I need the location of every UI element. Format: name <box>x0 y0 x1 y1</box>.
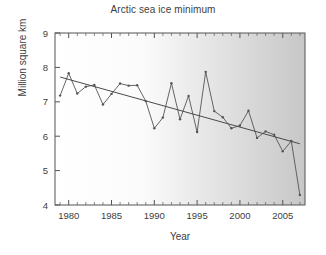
y-tick-label: 4 <box>43 200 48 211</box>
x-tick-label: 2000 <box>229 210 250 221</box>
data-point <box>213 110 215 112</box>
data-point <box>93 84 95 86</box>
chart-container: Arctic sea ice minimum Million square km… <box>0 0 326 255</box>
x-tick-label: 1980 <box>58 210 79 221</box>
x-tick-label: 1985 <box>101 210 122 221</box>
y-tick-label: 5 <box>43 165 48 176</box>
x-tick-label: 1995 <box>187 210 208 221</box>
data-point <box>162 116 164 118</box>
data-point <box>282 150 284 152</box>
x-tick-label: 1990 <box>144 210 165 221</box>
data-point <box>68 72 70 74</box>
data-point <box>273 134 275 136</box>
data-point <box>170 82 172 84</box>
data-point <box>102 103 104 105</box>
data-point <box>127 84 129 86</box>
data-point <box>230 127 232 129</box>
plot-area: 456789 198019851990199520002005 <box>0 0 326 255</box>
data-point <box>264 130 266 132</box>
data-point <box>136 84 138 86</box>
data-point <box>222 116 224 118</box>
data-point <box>76 92 78 94</box>
data-point <box>256 137 258 139</box>
data-point <box>299 194 301 196</box>
y-tick-label: 6 <box>43 131 48 142</box>
data-point <box>110 93 112 95</box>
data-point <box>187 95 189 97</box>
data-point <box>153 127 155 129</box>
data-point <box>59 94 61 96</box>
y-tick-label: 9 <box>43 28 48 39</box>
data-point <box>85 85 87 87</box>
y-tick-label: 7 <box>43 96 48 107</box>
data-point <box>179 118 181 120</box>
data-point <box>247 110 249 112</box>
x-tick-label: 2005 <box>272 210 293 221</box>
data-point <box>119 82 121 84</box>
y-tick-label: 8 <box>43 62 48 73</box>
data-point <box>204 71 206 73</box>
data-point <box>196 131 198 133</box>
